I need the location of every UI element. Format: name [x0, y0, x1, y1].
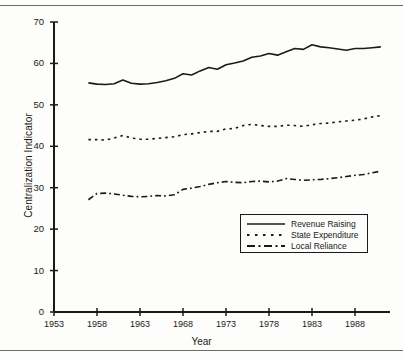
y-axis-title: Centralization Indicator	[23, 76, 34, 256]
x-tick-label: 1968	[163, 319, 203, 329]
axis-lines	[54, 22, 390, 312]
data-series-group	[88, 45, 380, 200]
y-tick-label: 0	[14, 306, 44, 317]
legend-swatch-solid	[246, 219, 286, 229]
x-tick-label: 1988	[335, 319, 375, 329]
x-tick-label: 1983	[292, 319, 332, 329]
series-line-state-expenditure	[88, 116, 380, 140]
legend-item-revenue-raising: Revenue Raising	[246, 218, 356, 229]
legend-swatch-dotted	[246, 230, 286, 240]
y-tick-label: 70	[14, 16, 44, 27]
x-tick-label: 1953	[34, 319, 74, 329]
chart-figure: 010203040506070 195319581963196819731978…	[0, 0, 403, 360]
legend-label-local-reliance: Local Reliance	[291, 241, 347, 251]
x-axis-title: Year	[0, 336, 403, 347]
series-line-local-reliance	[88, 171, 380, 200]
line-chart-plot	[0, 0, 403, 360]
legend-item-state-expenditure: State Expenditure	[246, 229, 359, 240]
legend-label-revenue-raising: Revenue Raising	[291, 219, 356, 229]
legend-item-local-reliance: Local Reliance	[246, 240, 347, 251]
y-tick-label: 60	[14, 57, 44, 68]
series-line-revenue-raising	[88, 45, 380, 85]
legend-label-state-expenditure: State Expenditure	[291, 230, 359, 240]
chart-legend: Revenue Raising State Expenditure Local …	[240, 214, 368, 253]
x-tick-label: 1973	[206, 319, 246, 329]
y-tick-label: 10	[14, 265, 44, 276]
x-tick-label: 1963	[120, 319, 160, 329]
legend-swatch-dashdot	[246, 241, 286, 251]
x-tick-label: 1978	[249, 319, 289, 329]
x-tick-label: 1958	[77, 319, 117, 329]
